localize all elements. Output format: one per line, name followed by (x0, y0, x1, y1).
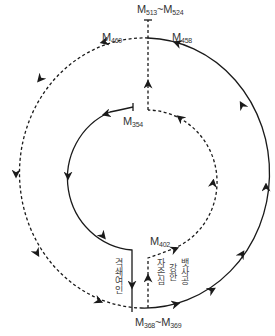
label-m368-m369: M368~M369 (135, 316, 181, 329)
cycle-diagram (0, 0, 275, 336)
vertical-text-right-3: 뱃사공 (179, 258, 189, 285)
label-m458: M458 (172, 31, 192, 44)
label-m460: M460 (102, 31, 122, 44)
label-m354: M354 (123, 115, 143, 128)
vertical-text-left: 격쇄여인 (113, 258, 123, 294)
arrow-icon (242, 105, 246, 112)
vertical-text-right-2: 강한 (167, 263, 177, 281)
label-m402: M402 (150, 235, 170, 248)
arrow-icon (40, 72, 46, 79)
arrow-icon (98, 230, 103, 236)
arrow-icon (212, 183, 213, 190)
arrow-icon (33, 246, 37, 253)
inner-solid-arc (67, 107, 133, 312)
label-m513-m524: M513~M524 (137, 3, 183, 16)
vertical-text-right-1: 자존심 (155, 258, 165, 285)
outer-dashed-arc (19, 38, 148, 308)
